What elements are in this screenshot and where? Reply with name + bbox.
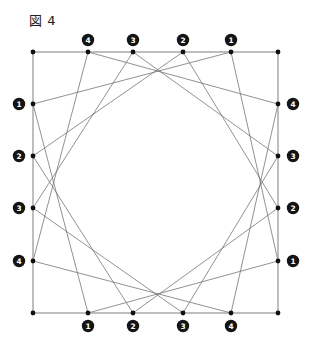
badge-label: 3 [180,322,185,331]
badge-label: 2 [180,36,185,45]
node-layer [31,50,281,316]
badge-label: 4 [85,36,90,45]
chord-line [183,52,278,208]
chord-layer [33,52,278,313]
badge-label: 4 [228,322,233,331]
point-badge-right-1: 1 [287,255,299,267]
badge-label: 2 [16,152,21,161]
point-badge-top-4: 4 [82,34,94,46]
square-frame [33,52,278,313]
chord-line [231,104,278,313]
badge-label: 2 [290,204,295,213]
division-point-bottom-2 [131,311,136,316]
point-badge-bottom-4: 4 [225,320,237,332]
point-badge-top-3: 3 [127,34,139,46]
chord-line [33,52,133,208]
figure-root: 図 4 4321432112341234 [0,0,317,342]
division-point-left-3 [31,206,36,211]
badge-label: 3 [130,36,135,45]
division-point-bottom-1 [86,311,91,316]
square-outline [33,52,278,313]
badge-layer: 4321432112341234 [13,34,299,332]
badge-label: 1 [16,100,21,109]
division-point-top-2 [181,50,186,55]
division-point-bottom-4 [229,311,234,316]
point-badge-right-3: 3 [287,150,299,162]
point-badge-left-2: 2 [13,150,25,162]
point-badge-left-4: 4 [13,255,25,267]
point-badge-right-2: 2 [287,202,299,214]
division-point-right-3 [276,154,281,159]
point-badge-right-4: 4 [287,98,299,110]
badge-label: 4 [16,257,21,266]
division-point-left-4 [31,259,36,264]
division-point-bottom-3 [181,311,186,316]
chord-line [33,261,231,313]
badge-label: 1 [290,257,295,266]
chord-line [33,52,231,104]
division-point-top-4 [86,50,91,55]
point-badge-bottom-1: 1 [82,320,94,332]
chord-line [33,52,183,156]
point-badge-bottom-2: 2 [127,320,139,332]
point-badge-bottom-3: 3 [177,320,189,332]
point-badge-left-1: 1 [13,98,25,110]
chord-line [33,156,133,313]
corner-dot [276,311,281,316]
chord-line [231,52,278,261]
division-point-right-4 [276,102,281,107]
chord-line [183,156,278,313]
corner-dot [31,50,36,55]
point-badge-left-3: 3 [13,202,25,214]
chord-line [33,208,183,313]
corner-dot [276,50,281,55]
division-point-left-2 [31,154,36,159]
badge-label: 2 [130,322,135,331]
division-point-top-1 [229,50,234,55]
badge-label: 3 [290,152,295,161]
badge-label: 1 [85,322,90,331]
badge-label: 4 [290,100,295,109]
division-point-top-3 [131,50,136,55]
chord-line [133,208,278,313]
corner-dot [31,311,36,316]
division-point-right-1 [276,259,281,264]
point-badge-top-1: 1 [225,34,237,46]
badge-label: 1 [228,36,233,45]
division-point-left-1 [31,102,36,107]
figure-diagram: 4321432112341234 [0,0,317,342]
chord-line [133,52,278,156]
badge-label: 3 [16,204,21,213]
point-badge-top-2: 2 [177,34,189,46]
division-point-right-2 [276,206,281,211]
